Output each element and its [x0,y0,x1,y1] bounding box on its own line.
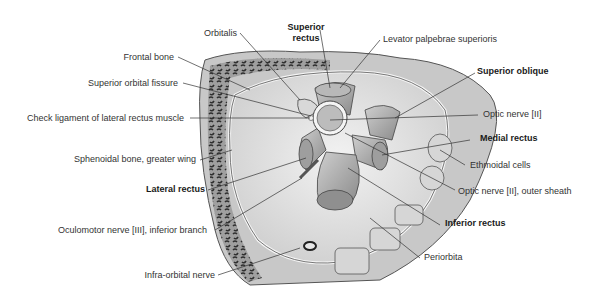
label-medial-rectus: Medial rectus [480,133,538,144]
label-check-ligament: Check ligament of lateral rectus muscle [27,113,184,124]
label-infra-orbital-nerve: Infra-orbital nerve [144,270,215,281]
infraorbital-canal [304,242,316,250]
label-superior-rectus-line2: rectus [276,33,336,44]
label-superior-orbital-fissure: Superior orbital fissure [88,78,178,89]
label-inferior-rectus: Inferior rectus [445,218,506,229]
label-sphenoidal-bone: Sphenoidal bone, greater wing [74,154,196,165]
label-lateral-rectus: Lateral rectus [146,184,205,195]
label-orbitalis: Orbitalis [204,28,237,39]
label-ethmoidal-cells: Ethmoidal cells [470,160,531,171]
label-optic-nerve: Optic nerve [II] [483,109,542,120]
label-superior-rectus: Superior rectus [276,22,336,44]
anatomy-figure: Orbitalis Superior rectus Levator palpeb… [0,0,589,290]
label-periorbita: Periorbita [424,252,463,263]
label-superior-oblique: Superior oblique [477,66,549,77]
label-superior-rectus-line1: Superior [276,22,336,33]
label-optic-nerve-outer-sheath: Optic nerve [II], outer sheath [458,186,572,197]
label-frontal-bone: Frontal bone [123,52,174,63]
label-levator-palpebrae-superioris: Levator palpebrae superioris [383,34,497,45]
label-oculomotor-nerve: Oculomotor nerve [III], inferior branch [58,225,207,236]
